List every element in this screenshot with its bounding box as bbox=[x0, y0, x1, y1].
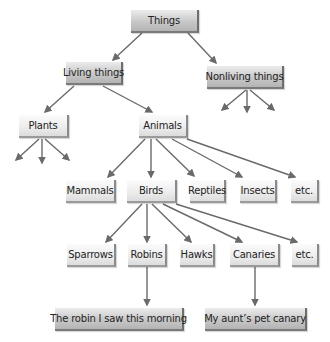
node-label: Canaries bbox=[233, 249, 275, 260]
node-mammals: Mammals bbox=[66, 180, 116, 203]
node-label: Things bbox=[148, 15, 180, 26]
node-living-things: Living things bbox=[66, 62, 123, 85]
node-label: Animals bbox=[143, 120, 181, 131]
arrow-things-nonliving bbox=[188, 33, 216, 63]
arrow-birds-hawks bbox=[152, 204, 191, 242]
node-label: Hawks bbox=[181, 249, 213, 260]
node-label: Reptiles bbox=[188, 185, 226, 196]
node-insects: Insects bbox=[240, 180, 277, 203]
node-nonliving-things: Nonliving things bbox=[207, 66, 284, 89]
node-reptiles: Reptiles bbox=[190, 180, 226, 203]
node-label: My aunt’s pet canary bbox=[204, 313, 306, 324]
node-label: Living things bbox=[63, 67, 124, 78]
node-label: Nonliving things bbox=[206, 71, 284, 82]
node-animals: Animals bbox=[139, 115, 188, 138]
node-label: Robins bbox=[130, 249, 162, 260]
node-hawks: Hawks bbox=[180, 244, 215, 267]
arrow-animals-insects bbox=[172, 139, 242, 177]
arrow-animals-mammals bbox=[108, 139, 145, 177]
arrow-plants-1 bbox=[16, 139, 39, 160]
node-label: etc. bbox=[295, 185, 313, 196]
arrow-animals-etc bbox=[187, 139, 295, 177]
node-canary-instance: My aunt’s pet canary bbox=[205, 308, 307, 331]
node-label: Birds bbox=[139, 185, 163, 196]
node-sparrows: Sparrows bbox=[67, 244, 116, 267]
arrow-birds-canaries bbox=[163, 204, 242, 242]
arrow-animals-reptiles bbox=[156, 139, 194, 176]
node-label: Insects bbox=[241, 185, 275, 196]
node-canaries: Canaries bbox=[230, 244, 280, 267]
node-label: Sparrows bbox=[68, 249, 113, 260]
node-things: Things bbox=[131, 10, 199, 33]
node-robin-instance: The robin I saw this morning bbox=[55, 308, 184, 331]
node-label: etc. bbox=[296, 249, 314, 260]
node-plants: Plants bbox=[19, 115, 69, 138]
node-birds: Birds bbox=[127, 180, 177, 203]
node-birds-etc: etc. bbox=[292, 244, 319, 267]
arrow-things-living bbox=[113, 33, 142, 60]
arrow-living-animals bbox=[103, 86, 152, 112]
arrow-birds-etc bbox=[176, 204, 297, 242]
arrow-plants-3 bbox=[45, 139, 69, 160]
arrow-birds-sparrows bbox=[106, 204, 142, 242]
node-robins: Robins bbox=[128, 244, 167, 267]
node-label: The robin I saw this morning bbox=[50, 313, 187, 324]
arrow-living-plants bbox=[45, 86, 74, 112]
node-label: Plants bbox=[28, 120, 57, 131]
arrow-nonliving-1 bbox=[222, 90, 246, 110]
arrow-nonliving-3 bbox=[250, 90, 274, 110]
node-animals-etc: etc. bbox=[291, 180, 319, 203]
node-label: Mammals bbox=[67, 185, 114, 196]
arrow-layer bbox=[0, 0, 330, 342]
